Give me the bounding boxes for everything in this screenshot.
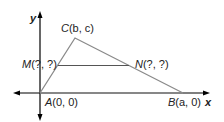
x-axis-label: x <box>205 97 211 108</box>
point-a-label: A(0, 0) <box>45 97 78 108</box>
y-axis-down-arrow-icon <box>38 114 43 121</box>
x-axis-right-arrow-icon <box>203 91 210 96</box>
point-b-label: B(a, 0) <box>168 97 201 108</box>
point-m-label: M(?, ?) <box>22 59 57 70</box>
point-n-label: N(?, ?) <box>135 59 169 70</box>
y-axis-label: y <box>30 13 36 24</box>
point-c-label: C(b, c) <box>61 23 94 34</box>
y-axis-up-arrow-icon <box>38 11 43 18</box>
x-axis-left-arrow-icon <box>13 91 20 96</box>
